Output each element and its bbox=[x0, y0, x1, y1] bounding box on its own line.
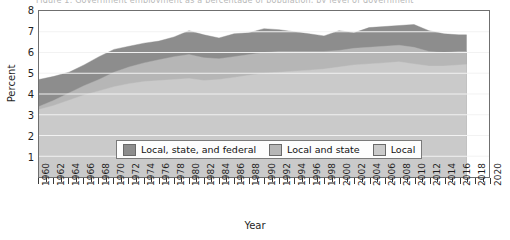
x-tick-1964 bbox=[68, 178, 69, 184]
x-tick-label-2008: 2008 bbox=[403, 163, 412, 186]
x-tick-label-2012: 2012 bbox=[433, 163, 442, 186]
legend-swatch-local bbox=[373, 144, 386, 156]
x-tick-2016 bbox=[460, 178, 461, 184]
x-tick-label-1988: 1988 bbox=[252, 163, 261, 186]
x-tick-label-1976: 1976 bbox=[162, 163, 171, 186]
x-tick-label-1974: 1974 bbox=[147, 163, 156, 186]
x-tick-2000 bbox=[339, 178, 340, 184]
x-tick-label-2010: 2010 bbox=[418, 163, 427, 186]
x-tick-1992 bbox=[279, 178, 280, 184]
y-axis: Percent 8 7 6 5 4 3 2 1 bbox=[4, 0, 34, 240]
figure-title-clipped: Figure 1. Government employment as a per… bbox=[36, 0, 476, 3]
y-tick-7: 7 bbox=[8, 27, 34, 37]
x-tick-2002 bbox=[354, 178, 355, 184]
x-tick-1998 bbox=[324, 178, 325, 184]
x-tick-1962 bbox=[53, 178, 54, 184]
x-tick-1968 bbox=[98, 178, 99, 184]
x-tick-label-2000: 2000 bbox=[343, 163, 352, 186]
x-tick-1994 bbox=[294, 178, 295, 184]
x-tick-label-2006: 2006 bbox=[388, 163, 397, 186]
x-tick-1978 bbox=[174, 178, 175, 184]
legend-item-local: Local bbox=[373, 144, 416, 156]
x-tick-label-2002: 2002 bbox=[358, 163, 367, 186]
x-tick-label-1982: 1982 bbox=[207, 163, 216, 186]
x-tick-1990 bbox=[264, 178, 265, 184]
x-tick-2006 bbox=[385, 178, 386, 184]
x-tick-label-1968: 1968 bbox=[102, 163, 111, 186]
x-tick-label-1984: 1984 bbox=[222, 163, 231, 186]
y-axis-label: Percent bbox=[6, 54, 17, 114]
legend-swatch-federal bbox=[123, 144, 136, 156]
y-tick-6: 6 bbox=[8, 48, 34, 58]
x-tick-label-2018: 2018 bbox=[478, 163, 487, 186]
x-tick-1976 bbox=[159, 178, 160, 184]
y-tick-1: 1 bbox=[8, 153, 34, 163]
x-tick-label-2020: 2020 bbox=[494, 163, 503, 186]
x-tick-label-2014: 2014 bbox=[448, 163, 457, 186]
x-tick-1980 bbox=[189, 178, 190, 184]
x-tick-2018 bbox=[475, 178, 476, 184]
x-tick-1966 bbox=[83, 178, 84, 184]
x-tick-2010 bbox=[415, 178, 416, 184]
x-tick-label-1966: 1966 bbox=[87, 163, 96, 186]
x-tick-label-2004: 2004 bbox=[373, 163, 382, 186]
x-tick-label-1998: 1998 bbox=[328, 163, 337, 186]
x-tick-1984 bbox=[219, 178, 220, 184]
y-tick-4: 4 bbox=[8, 90, 34, 100]
x-tick-label-1978: 1978 bbox=[177, 163, 186, 186]
x-tick-label-1996: 1996 bbox=[313, 163, 322, 186]
x-tick-label-1960: 1960 bbox=[42, 163, 51, 186]
x-tick-label-1994: 1994 bbox=[298, 163, 307, 186]
legend-label-local: Local bbox=[391, 145, 416, 155]
x-tick-label-1972: 1972 bbox=[132, 163, 141, 186]
x-tick-2012 bbox=[430, 178, 431, 184]
x-tick-1972 bbox=[128, 178, 129, 184]
x-tick-label-1962: 1962 bbox=[57, 163, 66, 186]
x-tick-1996 bbox=[309, 178, 310, 184]
x-tick-label-2016: 2016 bbox=[463, 163, 472, 186]
y-tick-8: 8 bbox=[8, 6, 34, 16]
x-tick-2020 bbox=[490, 178, 491, 184]
x-tick-label-1964: 1964 bbox=[72, 163, 81, 186]
x-axis-label: Year bbox=[0, 220, 510, 231]
x-tick-label-1990: 1990 bbox=[268, 163, 277, 186]
x-tick-1974 bbox=[144, 178, 145, 184]
x-tick-1988 bbox=[249, 178, 250, 184]
x-tick-2008 bbox=[400, 178, 401, 184]
x-tick-1970 bbox=[113, 178, 114, 184]
legend-label-state: Local and state bbox=[287, 145, 360, 155]
chart-legend: Local, state, and federal Local and stat… bbox=[116, 140, 422, 159]
y-tick-5: 5 bbox=[8, 69, 34, 79]
legend-item-state: Local and state bbox=[269, 144, 360, 156]
legend-swatch-state bbox=[269, 144, 282, 156]
x-tick-1986 bbox=[234, 178, 235, 184]
legend-label-federal: Local, state, and federal bbox=[141, 145, 256, 155]
chart-figure: Figure 1. Government employment as a per… bbox=[0, 0, 510, 240]
x-tick-1982 bbox=[204, 178, 205, 184]
legend-item-federal: Local, state, and federal bbox=[123, 144, 256, 156]
x-tick-2014 bbox=[445, 178, 446, 184]
x-tick-1960 bbox=[38, 178, 39, 184]
x-tick-label-1980: 1980 bbox=[192, 163, 201, 186]
x-tick-label-1986: 1986 bbox=[237, 163, 246, 186]
x-tick-label-1992: 1992 bbox=[283, 163, 292, 186]
y-tick-3: 3 bbox=[8, 111, 34, 121]
x-tick-label-1970: 1970 bbox=[117, 163, 126, 186]
x-tick-2004 bbox=[370, 178, 371, 184]
y-tick-2: 2 bbox=[8, 132, 34, 142]
